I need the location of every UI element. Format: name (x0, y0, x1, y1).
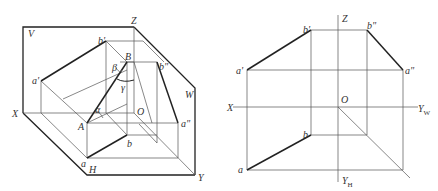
label-a-top: a (81, 158, 86, 169)
segment-a-b-side (367, 30, 403, 70)
label-h-plane: H (88, 164, 97, 175)
label-a-front: a' (236, 65, 244, 76)
label-gamma: γ (121, 82, 126, 93)
label-o: O (137, 106, 144, 117)
label-b-front: b' (303, 24, 311, 35)
label-a-side: a" (181, 118, 191, 129)
left-axonometric-diagram: V Z W X O Y H b' B b" β γ a' α A a" b a (11, 15, 205, 183)
label-a-side: a" (405, 65, 415, 76)
45-degree-line (338, 107, 410, 178)
label-w-plane: W (185, 89, 195, 100)
gamma-arc (117, 79, 134, 81)
label-alpha: α (95, 104, 101, 115)
label-a-top: a (238, 164, 243, 175)
label-B: B (125, 51, 131, 62)
label-x: X (226, 102, 234, 113)
segment-a-b-front (41, 41, 106, 81)
label-y: Y (198, 172, 205, 183)
label-v-plane: V (28, 28, 36, 39)
label-a-front: a' (32, 75, 40, 86)
label-x: X (11, 108, 19, 119)
label-beta: β (111, 62, 117, 73)
label-b-front: b' (98, 35, 106, 46)
h-plane-frame (23, 113, 195, 175)
label-z: Z (131, 15, 137, 26)
label-o: O (341, 94, 348, 105)
w-plane-frame (134, 27, 195, 175)
label-b-top: b (303, 129, 308, 140)
segment-a-b-top (87, 135, 127, 158)
label-b-top: b (127, 138, 132, 149)
label-b-side: b" (367, 20, 377, 31)
label-z: Z (342, 13, 348, 24)
segment-a-b-front (247, 30, 311, 70)
label-A: A (77, 121, 85, 132)
projection-diagrams: V Z W X O Y H b' B b" β γ a' α A a" b a (0, 0, 438, 191)
label-b-side: b" (159, 61, 169, 72)
segment-a-b-top (247, 135, 311, 170)
label-yw: YW (418, 103, 431, 117)
right-orthographic-diagram: Z b' b" a' a" X O YW b a YH (226, 13, 431, 189)
label-yh: YH (342, 175, 353, 189)
